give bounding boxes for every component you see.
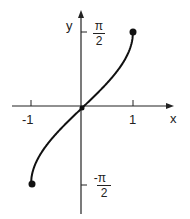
tick-label-neg-pi-half: -π 2 <box>89 172 111 199</box>
tick-label-neg1: -1 <box>22 113 34 126</box>
neg-pi-numerator: -π <box>94 171 106 185</box>
pi-denominator: 2 <box>96 34 103 48</box>
tick-label-pi-half: π 2 <box>93 20 105 47</box>
tick-label-1: 1 <box>129 113 136 126</box>
x-axis-label: x <box>170 112 177 125</box>
neg-pi-denominator: 2 <box>93 186 108 200</box>
endpoint-top <box>130 29 137 36</box>
y-axis-label: y <box>66 19 73 32</box>
x-axis-arrow-icon <box>166 103 174 109</box>
origin-point <box>80 106 85 111</box>
endpoint-bottom <box>29 181 36 188</box>
pi-numerator: π <box>95 19 103 33</box>
y-axis-arrow-icon <box>78 10 84 18</box>
